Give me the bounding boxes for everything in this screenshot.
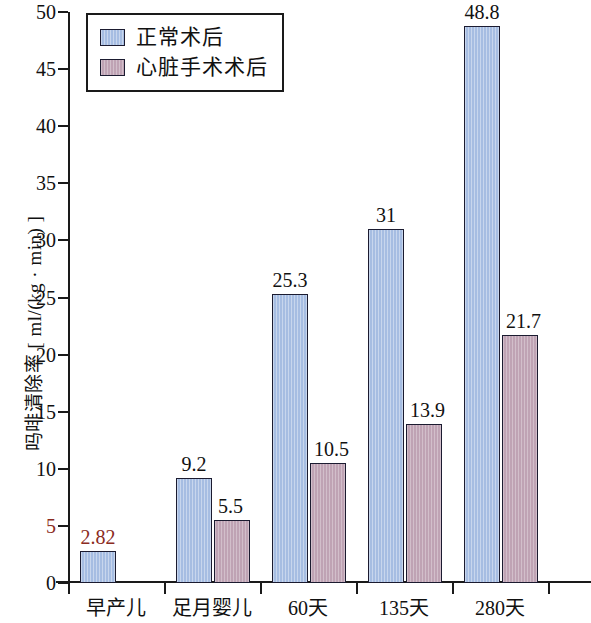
legend-item-normal-postop: 正常术后: [100, 22, 268, 52]
y-axis-tick-mark: [58, 525, 68, 527]
y-axis-tick-mark: [58, 297, 68, 299]
y-axis-tick-labels: 05101520253035404550: [22, 0, 56, 623]
y-axis-tick-mark: [58, 11, 68, 13]
bar-value-label: 10.5: [314, 439, 349, 459]
y-axis-line: [68, 12, 70, 583]
y-axis-tick-mark: [58, 582, 68, 584]
y-axis-tick-label: 25: [22, 288, 56, 308]
y-axis-tick-label: 0: [22, 573, 56, 593]
legend-label-cardiac-surgery-postop: 心脏手术术后: [136, 57, 268, 78]
bar-value-label: 21.7: [506, 311, 541, 331]
bar-chart: 吗啡清除率 [ ml/(kg · min) ] 0510152025303540…: [0, 0, 591, 623]
y-axis-tick-label: 30: [22, 230, 56, 250]
y-axis-tick-mark: [58, 182, 68, 184]
x-axis-category-label: 135天: [356, 592, 452, 621]
y-axis-tick-mark: [58, 354, 68, 356]
bar: [464, 26, 500, 583]
x-axis-category-label: 早产儿: [68, 592, 164, 621]
bar: [80, 551, 116, 583]
bar-value-label: 13.9: [410, 400, 445, 420]
y-axis-tick-label: 15: [22, 402, 56, 422]
y-axis-tick-mark: [58, 411, 68, 413]
bar-value-label: 48.8: [458, 2, 506, 22]
bar-value-label: 9.2: [170, 454, 218, 474]
bar: [176, 478, 212, 583]
y-axis-tick-label: 35: [22, 173, 56, 193]
x-axis-tick-mark: [548, 583, 550, 594]
y-axis-tick-mark: [58, 125, 68, 127]
y-axis-tick-label: 50: [22, 2, 56, 22]
x-axis-category-label: 60天: [260, 592, 356, 621]
x-axis-category-label: 280天: [452, 592, 548, 621]
legend-label-normal-postop: 正常术后: [136, 27, 224, 48]
y-axis-tick-label: 40: [22, 116, 56, 136]
y-axis-tick-label: 10: [22, 459, 56, 479]
bar: [272, 294, 308, 583]
legend-item-cardiac-surgery-postop: 心脏手术术后: [100, 52, 268, 82]
bar: [502, 335, 538, 583]
y-axis-tick-mark: [58, 468, 68, 470]
bar: [214, 520, 250, 583]
y-axis-tick-mark: [58, 68, 68, 70]
legend-swatch-icon-cardiac-surgery-postop: [100, 59, 125, 76]
y-axis-tick-label: 5: [22, 516, 56, 536]
bar-value-label: 2.82: [74, 527, 122, 547]
bar-value-label: 25.3: [266, 270, 314, 290]
bar-value-label: 5.5: [218, 496, 243, 516]
bar: [368, 229, 404, 583]
chart-legend: 正常术后 心脏手术术后: [86, 13, 284, 92]
bar: [406, 424, 442, 583]
bar-value-label: 31: [362, 205, 410, 225]
y-axis-tick-label: 45: [22, 59, 56, 79]
legend-swatch-icon-normal-postop: [100, 29, 125, 46]
x-axis-category-label: 足月婴儿: [164, 592, 260, 621]
bar: [310, 463, 346, 583]
plot-area: 2.829.25.525.310.53113.948.821.7: [68, 12, 591, 583]
y-axis-tick-mark: [58, 239, 68, 241]
y-axis-tick-label: 20: [22, 345, 56, 365]
